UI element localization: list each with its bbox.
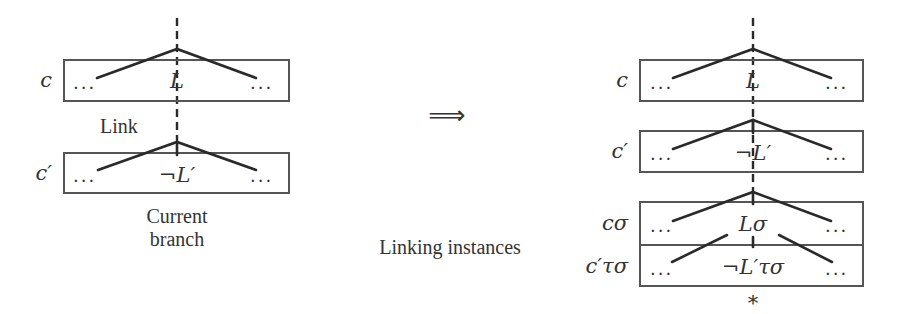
clause-c-prime: c′ ... ¬L′ ... <box>35 142 289 193</box>
linking-instances-label: Linking instances <box>379 236 521 259</box>
right-clause-c: c ... L ... <box>616 49 863 101</box>
clause-c-prime-tau-sigma-literal: ¬L′τσ <box>722 255 785 279</box>
clause-c-prime-ellipsis-right: ... <box>250 165 273 186</box>
current-branch: c ... L ... Link c′ ... ¬L′ ... Current … <box>35 18 289 250</box>
clause-c-literal: L <box>169 69 184 93</box>
clause-c-sigma-name: cσ <box>602 211 629 235</box>
clause-c: c ... L ... <box>40 49 289 101</box>
right-clause-c-prime-literal: ¬L′ <box>735 141 772 165</box>
clause-c-prime-tau-sigma: c′τσ ... ¬L′τσ ... <box>586 235 863 286</box>
closed-branch-marker: * <box>748 291 759 314</box>
right-clause-c-prime-ellipsis-right: ... <box>825 143 848 164</box>
clause-c-prime-tau-sigma-ellipsis-right: ... <box>825 258 848 279</box>
link-label: Link <box>100 115 138 137</box>
clause-c-prime-literal: ¬L′ <box>159 163 196 187</box>
caption-branch: branch <box>150 228 204 250</box>
clause-c-sigma-ellipsis-left: ... <box>650 215 673 236</box>
right-clause-c-ellipsis-left: ... <box>650 72 673 93</box>
clause-c-ellipsis-left: ... <box>73 72 96 93</box>
right-clause-c-literal: L <box>745 69 760 93</box>
transition: ⟹ Linking instances <box>379 100 521 259</box>
right-clause-c-prime-name: c′ <box>611 139 628 163</box>
right-clause-c-prime-ellipsis-left: ... <box>650 143 673 164</box>
implies-arrow-icon: ⟹ <box>428 100 465 130</box>
clause-c-prime-name: c′ <box>35 161 52 185</box>
linking-diagram: c ... L ... Link c′ ... ¬L′ ... Current … <box>0 0 899 314</box>
right-clause-c-name: c <box>616 68 628 92</box>
clause-c-prime-tau-sigma-edge-left <box>672 235 727 262</box>
clause-c-prime-ellipsis-left: ... <box>73 165 96 186</box>
clause-c-sigma-literal: Lσ <box>738 212 768 236</box>
right-clause-c-ellipsis-right: ... <box>825 72 848 93</box>
right-clause-c-prime: c′ ... ¬L′ ... <box>611 120 863 172</box>
clause-c-sigma: cσ ... Lσ ... <box>602 192 863 245</box>
clause-c-sigma-ellipsis-right: ... <box>825 215 848 236</box>
extended-branch: c ... L ... c′ ... ¬L′ ... cσ ... Lσ ... <box>586 18 863 314</box>
caption-current: Current <box>146 205 208 227</box>
clause-c-prime-tau-sigma-ellipsis-left: ... <box>650 258 673 279</box>
clause-c-prime-tau-sigma-name: c′τσ <box>586 254 629 278</box>
clause-c-ellipsis-right: ... <box>250 72 273 93</box>
clause-c-name: c <box>40 68 52 92</box>
